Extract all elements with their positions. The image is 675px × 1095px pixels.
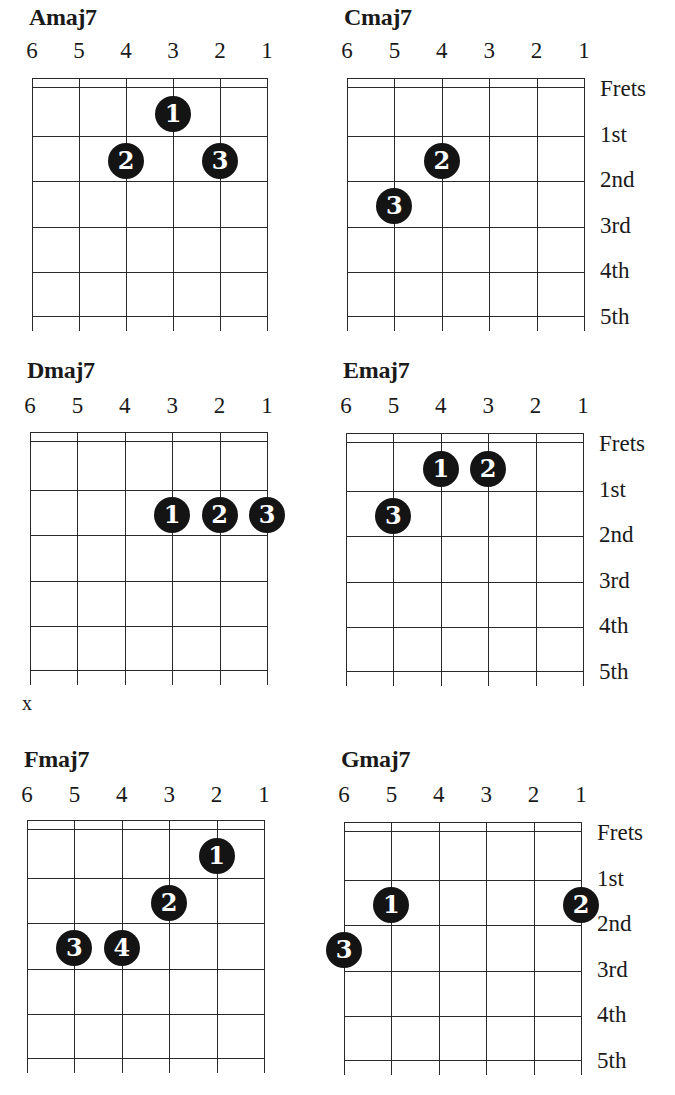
string-line-3 <box>489 78 490 331</box>
string-number-1: 1 <box>254 782 274 808</box>
fret-line-3 <box>344 971 581 972</box>
fret-line-5 <box>346 671 583 672</box>
fret-line-2 <box>32 181 267 182</box>
string-number-4: 4 <box>115 393 135 419</box>
string-line-1 <box>264 820 265 1073</box>
finger-dot-1: 1 <box>199 838 235 874</box>
fret-label-5th: 5th <box>599 659 628 685</box>
fret-line-4 <box>346 627 583 628</box>
muted-string-mark: x <box>22 692 32 715</box>
fret-label-1st: 1st <box>600 122 627 148</box>
chord-title: Amaj7 <box>29 4 97 31</box>
finger-dot-2: 2 <box>470 451 506 487</box>
string-line-5 <box>77 432 78 685</box>
string-line-1 <box>267 432 268 685</box>
string-number-3: 3 <box>478 393 498 419</box>
finger-dot-3: 3 <box>375 498 411 534</box>
fret-label-4th: 4th <box>599 613 628 639</box>
string-line-3 <box>172 432 173 685</box>
string-line-2 <box>220 432 221 685</box>
string-number-6: 6 <box>22 38 42 64</box>
fret-label-4th: 4th <box>597 1002 626 1028</box>
finger-dot-2: 2 <box>151 885 187 921</box>
fret-line-2 <box>344 925 581 926</box>
string-number-5: 5 <box>381 782 401 808</box>
fret-label-3rd: 3rd <box>597 957 628 983</box>
string-line-6 <box>27 820 28 1073</box>
finger-dot-4: 4 <box>104 930 140 966</box>
nut-line <box>30 441 267 442</box>
string-number-2: 2 <box>524 782 544 808</box>
chord-title: Dmaj7 <box>27 357 95 384</box>
string-number-1: 1 <box>257 38 277 64</box>
string-line-1 <box>584 78 585 331</box>
nut-line <box>347 87 584 88</box>
string-line-3 <box>169 820 170 1073</box>
fretboard-top-edge <box>30 432 267 433</box>
string-number-6: 6 <box>17 782 37 808</box>
string-line-4 <box>442 78 443 331</box>
fret-line-2 <box>27 923 264 924</box>
finger-dot-1: 1 <box>423 451 459 487</box>
fret-line-3 <box>32 227 267 228</box>
fret-line-4 <box>32 272 267 273</box>
fret-label-5th: 5th <box>597 1048 626 1074</box>
string-line-6 <box>346 433 347 686</box>
string-line-5 <box>391 822 392 1075</box>
fret-label-3rd: 3rd <box>599 568 630 594</box>
fret-line-2 <box>347 181 584 182</box>
fretboard-top-edge <box>347 78 584 79</box>
string-number-5: 5 <box>69 38 89 64</box>
string-line-5 <box>79 78 80 331</box>
finger-dot-3: 3 <box>376 188 412 224</box>
finger-dot-1: 1 <box>155 96 191 132</box>
string-line-2 <box>536 433 537 686</box>
string-line-1 <box>581 822 582 1075</box>
string-line-4 <box>126 78 127 331</box>
fret-line-3 <box>347 227 584 228</box>
fret-label-frets: Frets <box>599 431 645 457</box>
chord-title: Gmaj7 <box>341 746 410 773</box>
string-number-5: 5 <box>64 782 84 808</box>
fretboard-top-edge <box>346 433 583 434</box>
fret-label-4th: 4th <box>600 258 629 284</box>
string-number-4: 4 <box>116 38 136 64</box>
string-number-3: 3 <box>163 38 183 64</box>
fret-line-1 <box>30 490 267 491</box>
string-number-4: 4 <box>431 393 451 419</box>
fret-line-1 <box>347 136 584 137</box>
string-number-5: 5 <box>67 393 87 419</box>
nut-line <box>32 87 267 88</box>
string-line-2 <box>534 822 535 1075</box>
fret-line-1 <box>344 880 581 881</box>
string-number-2: 2 <box>527 38 547 64</box>
string-line-2 <box>220 78 221 331</box>
fret-label-frets: Frets <box>600 76 646 102</box>
fret-line-2 <box>346 536 583 537</box>
chord-title: Emaj7 <box>343 357 410 384</box>
string-number-1: 1 <box>257 393 277 419</box>
string-number-6: 6 <box>336 393 356 419</box>
fret-line-5 <box>30 670 267 671</box>
string-number-5: 5 <box>383 393 403 419</box>
fretboard-top-edge <box>32 78 267 79</box>
fretboard-top-edge <box>344 822 581 823</box>
fret-line-2 <box>30 535 267 536</box>
fret-line-3 <box>27 969 264 970</box>
fret-line-1 <box>346 491 583 492</box>
string-number-3: 3 <box>159 782 179 808</box>
finger-dot-1: 1 <box>373 887 409 923</box>
fret-label-2nd: 2nd <box>600 167 635 193</box>
fret-line-3 <box>30 581 267 582</box>
string-number-4: 4 <box>432 38 452 64</box>
nut-line <box>346 442 583 443</box>
string-number-2: 2 <box>210 393 230 419</box>
string-line-6 <box>32 78 33 331</box>
finger-dot-2: 2 <box>563 887 599 923</box>
fret-label-1st: 1st <box>599 477 626 503</box>
finger-dot-3: 3 <box>326 932 362 968</box>
string-number-1: 1 <box>573 393 593 419</box>
string-number-2: 2 <box>526 393 546 419</box>
finger-dot-3: 3 <box>202 143 238 179</box>
string-number-4: 4 <box>429 782 449 808</box>
